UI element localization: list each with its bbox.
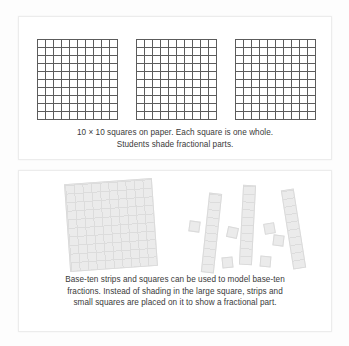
ten-by-ten-grid-2 [136,39,217,120]
base-ten-unit-square-3 [226,226,239,239]
base-ten-ten-strip-2 [239,185,256,266]
base-ten-hundred-square [64,178,158,272]
base-ten-fraction-models-figure: 10 × 10 squares on paper. Each square is… [0,0,349,346]
base-ten-caption: Base-ten strips and squares can be used … [29,274,321,309]
paper-grids-caption-line-1: 10 × 10 squares on paper. Each square is… [29,127,321,139]
base-ten-manipulatives-panel: Base-ten strips and squares can be used … [18,170,332,332]
base-ten-caption-line-2: fractions. Instead of shading in the lar… [29,286,321,298]
paper-grids-caption: 10 × 10 squares on paper. Each square is… [29,127,321,150]
base-ten-caption-line-1: Base-ten strips and squares can be used … [29,274,321,286]
paper-grids-panel: 10 × 10 squares on paper. Each square is… [18,16,332,160]
ten-by-ten-grid-1 [37,39,118,120]
base-ten-unit-square-2 [221,256,233,268]
manipulatives-area [19,171,331,275]
base-ten-ten-strip-3 [281,188,306,269]
base-ten-unit-square-1 [188,220,200,232]
base-ten-caption-line-3: small squares are placed on it to show a… [29,297,321,309]
base-ten-unit-square-5 [263,222,276,235]
base-ten-unit-square-6 [272,234,284,246]
ten-by-ten-grid-3 [235,39,316,120]
base-ten-ten-strip-1 [201,193,222,274]
paper-grids-caption-line-2: Students shade fractional parts. [29,139,321,151]
base-ten-unit-square-4 [260,256,272,268]
grid-row [19,39,331,123]
